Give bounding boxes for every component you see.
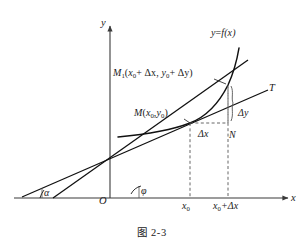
x0dx-tail: +Δx — [221, 200, 238, 211]
y-axis-label: y — [101, 18, 106, 29]
x-axis-label: x — [291, 193, 296, 204]
m1-x-delta: + Δx, — [136, 67, 159, 78]
delta-x-label: Δx — [198, 129, 209, 139]
x-tick-x0-label: x0 — [182, 201, 190, 213]
angle-phi-label: φ — [141, 186, 147, 196]
point-m1-label: M1(x0+ Δx, y0+ Δy) — [113, 68, 193, 80]
figure-container: y x O y=f(x) T M1(x0+ Δx, y0+ Δy) M(x0,y… — [0, 0, 304, 248]
m-label-leader — [184, 119, 190, 123]
phi-angle-arc — [131, 186, 141, 194]
figure-caption: 图 2-3 — [0, 224, 304, 239]
curve-label: y=f(x) — [211, 28, 236, 38]
point-n-label: N — [229, 130, 236, 140]
point-m-label: M(x0,y0) — [134, 108, 168, 120]
delta-y-label: Δy — [238, 108, 249, 118]
origin-label: O — [99, 196, 107, 207]
x0-sub: 0 — [187, 205, 190, 212]
m1-y-delta: + Δy) — [169, 67, 192, 78]
function-curve — [118, 48, 239, 137]
tangent-line-label: T — [269, 83, 275, 94]
figure-drawing — [0, 0, 304, 248]
curve-label-arg: (x) — [224, 27, 235, 38]
delta-y-brace — [231, 86, 233, 121]
x-tick-x0-plus-dx-label: x0+Δx — [213, 201, 238, 213]
m-close-paren: ) — [164, 107, 167, 118]
angle-alpha-label: α — [44, 188, 49, 198]
